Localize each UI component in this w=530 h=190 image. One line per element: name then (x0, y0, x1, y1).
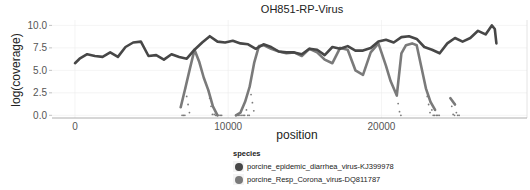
data-point (438, 114, 440, 116)
legend-label: porcine_epidemic_diarrhea_virus-KJ399978 (247, 162, 394, 171)
data-point (244, 114, 246, 116)
x-axis-title: position (276, 128, 317, 142)
series-dot-icon (235, 163, 243, 171)
data-point (184, 114, 186, 116)
data-point (458, 114, 460, 116)
series-dot-icon (235, 176, 243, 184)
data-point (209, 97, 211, 99)
legend-title: species (233, 149, 394, 158)
legend: species porcine_epidemic_diarrhea_virus-… (233, 149, 394, 186)
data-point (425, 87, 427, 89)
chart-title: OH851-RP-Virus (261, 3, 344, 15)
data-point (186, 96, 188, 98)
data-point (431, 109, 433, 111)
data-point (454, 114, 456, 116)
data-point (451, 105, 453, 107)
series-layer (75, 25, 496, 116)
x-tick-label: 0 (72, 121, 78, 132)
data-point (449, 97, 451, 99)
y-tick-label: 5.0 (33, 65, 47, 76)
y-tick-label: 2.5 (33, 87, 47, 98)
y-tick-label: 10.0 (28, 20, 48, 31)
data-point (252, 102, 254, 104)
data-point (400, 114, 402, 116)
data-point (253, 110, 255, 112)
data-point (430, 101, 432, 103)
data-point (454, 104, 456, 106)
data-point (248, 114, 250, 116)
series-line (75, 25, 496, 63)
data-point (426, 96, 428, 98)
data-point (428, 104, 430, 106)
data-point (399, 111, 401, 113)
data-point (429, 112, 431, 114)
data-point (189, 112, 191, 114)
legend-key (233, 174, 244, 185)
data-point (184, 87, 186, 89)
x-axis-ticks: 01000020000 (72, 121, 396, 132)
legend-item: porcine_Resp_Corona_virus-DQ811787 (233, 173, 394, 186)
y-tick-label: 7.5 (33, 42, 47, 53)
data-point (397, 103, 399, 105)
legend-key (233, 161, 244, 172)
data-point (250, 94, 252, 96)
data-point (187, 104, 189, 106)
data-point (434, 109, 436, 111)
legend-label: porcine_Resp_Corona_virus-DQ811787 (247, 175, 380, 184)
x-tick-label: 10000 (214, 121, 242, 132)
y-axis-ticks: 0.02.55.07.510.0 (28, 20, 52, 121)
data-point (240, 112, 242, 114)
data-point (212, 114, 214, 116)
data-point (455, 112, 457, 114)
grid (52, 20, 527, 118)
y-tick-label: 0.0 (33, 110, 47, 121)
data-point (212, 105, 214, 107)
data-point (244, 101, 246, 103)
data-point (239, 114, 241, 116)
y-axis-title: log(coverage) (9, 33, 23, 106)
data-point (249, 86, 251, 88)
data-point (207, 89, 209, 91)
data-point (434, 114, 436, 116)
legend-item: porcine_epidemic_diarrhea_virus-KJ399978 (233, 160, 394, 173)
series-line (181, 43, 455, 115)
x-tick-label: 20000 (368, 121, 396, 132)
data-point (210, 105, 212, 107)
data-point (180, 106, 182, 108)
data-point (246, 109, 248, 111)
data-point (221, 114, 223, 116)
data-point (396, 95, 398, 97)
